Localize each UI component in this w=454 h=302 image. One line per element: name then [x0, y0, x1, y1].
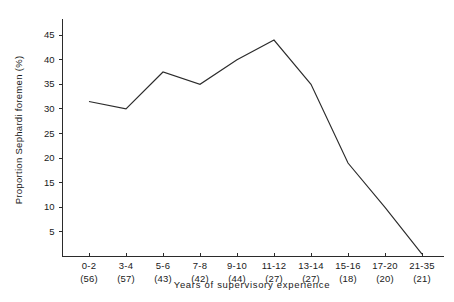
axes [63, 19, 444, 257]
y-tick-label: 40 [44, 54, 55, 65]
x-tick-label: 0-2 [82, 260, 96, 271]
x-tick-label: 13-14 [298, 260, 323, 271]
x-tick-count: (43) [154, 273, 172, 284]
y-tick-label: 35 [44, 78, 55, 89]
series-line [89, 40, 422, 254]
x-tick-label: 9-10 [227, 260, 247, 271]
axis-spines [63, 19, 444, 257]
y-axis-tick-labels: 51015202530354045 [44, 29, 55, 237]
line-chart: 51015202530354045 0-2(56)3-4(57)5-6(43)7… [0, 0, 454, 302]
y-tick-label: 30 [44, 103, 55, 114]
x-tick-count: (56) [80, 273, 98, 284]
data-series [89, 40, 422, 254]
x-tick-count: (20) [376, 273, 394, 284]
y-tick-label: 15 [44, 177, 55, 188]
x-tick-label: 7-8 [193, 260, 207, 271]
x-tick-label: 11-12 [262, 260, 287, 271]
x-tick-label: 5-6 [156, 260, 170, 271]
y-tick-label: 25 [44, 128, 55, 139]
x-tick-count: (21) [413, 273, 431, 284]
x-axis-ticks [89, 253, 422, 257]
x-tick-label: 15-16 [335, 260, 360, 271]
y-tick-label: 5 [49, 226, 54, 237]
y-tick-label: 20 [44, 152, 55, 163]
x-tick-count: (57) [117, 273, 135, 284]
y-axis-title: Proportion Sephardi foremen (%) [13, 56, 24, 205]
x-tick-label: 21-35 [409, 260, 434, 271]
x-tick-count: (18) [339, 273, 357, 284]
y-axis-ticks [59, 35, 63, 232]
x-tick-label: 3-4 [119, 260, 133, 271]
x-axis-title: Years of supervisory experience [174, 279, 331, 290]
y-tick-label: 10 [44, 201, 55, 212]
x-tick-label: 17-20 [372, 260, 397, 271]
chart-figure: 51015202530354045 0-2(56)3-4(57)5-6(43)7… [0, 0, 454, 302]
y-tick-label: 45 [44, 29, 55, 40]
